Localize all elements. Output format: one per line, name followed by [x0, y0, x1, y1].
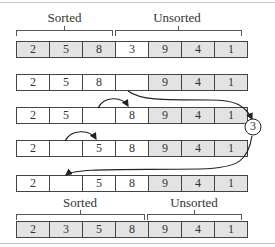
arrow-insert-from-temp: [66, 136, 252, 175]
arrows-layer: [0, 0, 275, 247]
bottom-rule: [0, 243, 275, 244]
temp-value: 3: [245, 119, 261, 134]
arrow-shift-8: [98, 99, 128, 108]
arrow-remove-to-temp: [128, 91, 252, 119]
arrow-shift-5: [65, 132, 96, 141]
